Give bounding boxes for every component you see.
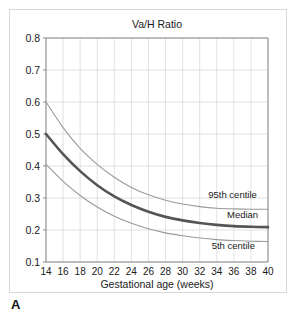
series-label-95th-centile: 95th centile [208,189,257,200]
y-axis-tick-label: 0.8 [25,32,40,44]
x-axis-tick-label: 28 [160,266,172,277]
va-h-ratio-line-chart: 1416182022242628303234363840 0.10.20.30.… [0,0,297,316]
x-axis-tick-label: 36 [228,266,240,277]
series-annotations: 95th centileMedian5th centile [208,189,258,251]
y-axis-tick-label: 0.5 [25,128,40,140]
axis-lines [46,38,268,262]
x-axis-tick-label: 14 [40,266,52,277]
y-axis-tick-label: 0.3 [25,192,40,204]
x-axis-tick-label: 32 [194,266,206,277]
x-axis-tick-labels: 1416182022242628303234363840 [40,266,274,277]
series-label-5th-centile: 5th centile [212,240,255,251]
x-axis-tick-label: 22 [109,266,121,277]
x-axis-tick-label: 16 [58,266,70,277]
x-axis-tick-label: 38 [245,266,257,277]
x-axis-tick-label: 40 [262,266,274,277]
y-axis-tick-labels: 0.10.20.30.40.50.60.70.8 [25,32,46,268]
x-axis-tick-label: 18 [75,266,87,277]
x-axis-title: Gestational age (weeks) [100,278,213,290]
y-axis-tick-label: 0.2 [25,224,40,236]
figure-panel: 1416182022242628303234363840 0.10.20.30.… [0,0,297,316]
y-axis-tick-label: 0.4 [25,160,40,172]
y-axis-tick-label: 0.7 [25,64,40,76]
series-label-median: Median [227,209,258,220]
x-axis-tick-label: 24 [126,266,138,277]
x-axis-tick-label: 34 [211,266,223,277]
x-axis-tick-label: 26 [143,266,155,277]
data-series-curves [46,102,268,242]
chart-title: Va/H Ratio [132,18,182,30]
panel-letter-label: A [11,297,21,312]
y-axis-tick-label: 0.6 [25,96,40,108]
gridlines [46,38,268,262]
x-axis-tick-label: 20 [92,266,104,277]
x-axis-tick-label: 30 [177,266,189,277]
y-axis-tick-label: 0.1 [25,256,40,268]
